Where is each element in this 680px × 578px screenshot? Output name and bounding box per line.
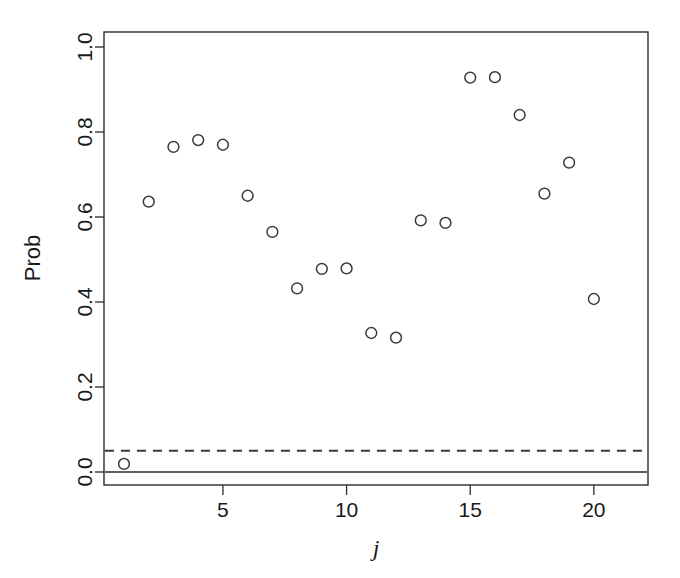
x-tick-label: 15 [459, 498, 482, 521]
y-tick-label: 0.4 [73, 287, 96, 317]
y-tick-label: 0.2 [73, 372, 96, 401]
y-tick-label: 0.8 [73, 117, 96, 146]
x-tick-label: 10 [335, 498, 358, 521]
y-tick-label: 0.6 [73, 202, 96, 231]
figure-background [0, 0, 680, 578]
x-tick-label: 5 [217, 498, 229, 521]
y-tick-label: 0.0 [73, 457, 96, 486]
x-tick-label: 20 [582, 498, 605, 521]
y-axis-title: Prob [20, 235, 45, 281]
plot-canvas: 0.00.20.40.60.81.0 5101520 Prob j [0, 0, 680, 578]
scatter-plot-figure: 0.00.20.40.60.81.0 5101520 Prob j [0, 0, 680, 578]
y-tick-label: 1.0 [73, 32, 96, 61]
